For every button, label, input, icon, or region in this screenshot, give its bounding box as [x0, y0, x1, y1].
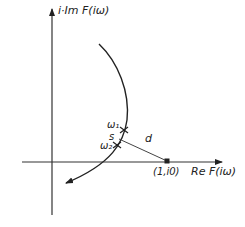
arc-length-label: s	[109, 131, 114, 142]
nyquist-diagram: i·Im F(iω) Re F(iω) (1,i0) ω₁ ω₂ s d	[0, 0, 245, 227]
x-axis-label: Re F(iω)	[191, 165, 236, 178]
critical-point-label: (1,i0)	[153, 166, 179, 177]
distance-line	[119, 139, 167, 161]
y-axis-label: i·Im F(iω)	[58, 4, 109, 17]
omega1-label: ω₁	[107, 119, 119, 130]
critical-point	[165, 159, 170, 164]
distance-label: d	[145, 132, 153, 145]
